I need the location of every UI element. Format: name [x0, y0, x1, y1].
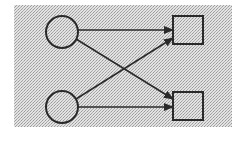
circle-node-c2 — [46, 91, 78, 123]
circle-node-c1 — [46, 16, 78, 48]
diagram-canvas — [0, 0, 245, 141]
square-node-s1 — [173, 16, 203, 44]
square-node-s2 — [173, 92, 203, 120]
